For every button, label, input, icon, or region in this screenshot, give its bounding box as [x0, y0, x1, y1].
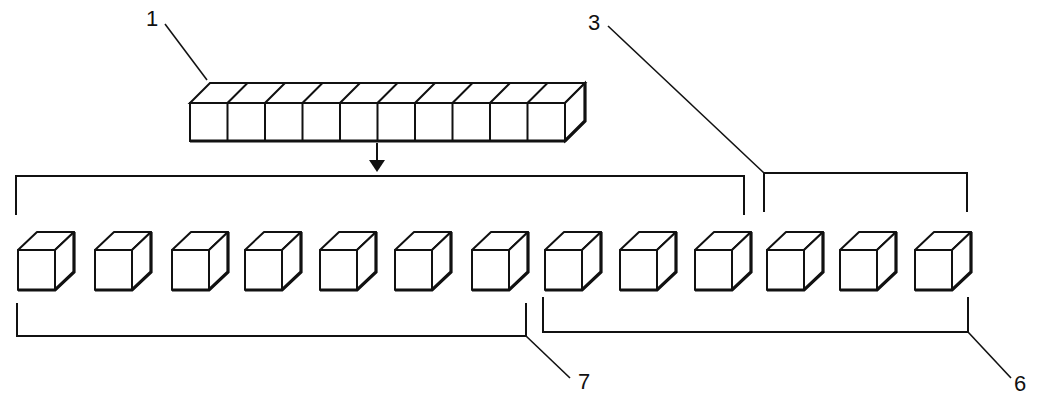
unit-cube-6 [395, 232, 451, 290]
arrow-down-icon [369, 160, 385, 172]
unit-cube-10 [695, 232, 751, 290]
label-3: 3 [588, 12, 600, 34]
leader-line-6 [968, 332, 1011, 378]
leader-line-1 [165, 24, 207, 80]
diagram-canvas: 1 3 7 6 [0, 0, 1039, 404]
unit-cube-8 [545, 232, 601, 290]
label-1: 1 [146, 8, 158, 30]
bracket-bottom-seven [17, 303, 526, 336]
leader-line-7 [526, 336, 570, 378]
unit-cube-12 [840, 232, 896, 290]
leader-line-3 [608, 26, 764, 173]
cube-diagram [0, 0, 1039, 404]
unit-cube-5 [320, 232, 376, 290]
unit-cube-4 [245, 232, 301, 290]
unit-cube-2 [95, 232, 151, 290]
unit-cube-7 [472, 232, 528, 290]
bracket-top-ten [16, 176, 744, 215]
unit-cube-13 [915, 232, 971, 290]
label-7: 7 [578, 371, 590, 393]
unit-cube-9 [620, 232, 676, 290]
unit-cube-11 [767, 232, 823, 290]
bracket-bottom-six [543, 297, 968, 332]
bracket-top-three [764, 173, 967, 212]
unit-cube-3 [172, 232, 228, 290]
label-6: 6 [1014, 373, 1026, 395]
ten-cube-rod [190, 83, 585, 141]
unit-cube-1 [18, 232, 74, 290]
